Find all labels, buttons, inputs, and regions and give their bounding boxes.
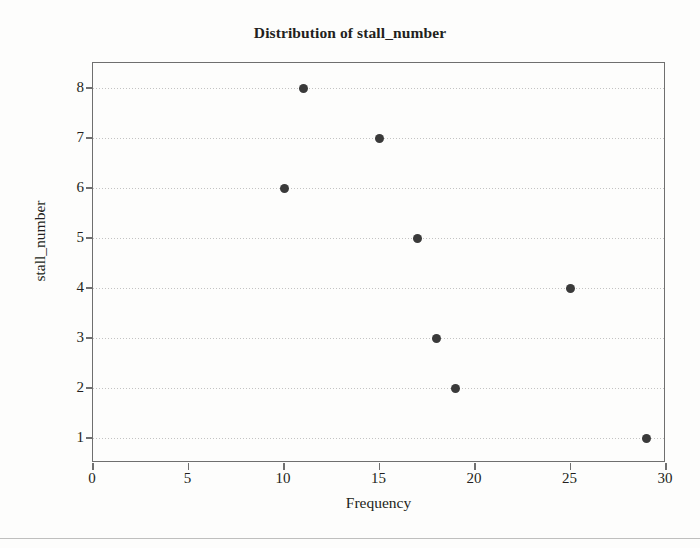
data-points-layer (93, 63, 664, 461)
y-tick-label: 8 (44, 79, 84, 96)
x-tick-mark (283, 463, 284, 470)
data-point (451, 384, 460, 393)
plot-area (92, 62, 665, 462)
chart-title: Distribution of stall_number (0, 24, 700, 42)
x-tick-mark (92, 463, 93, 470)
scan-artifact-line (0, 538, 700, 539)
x-tick-mark (570, 463, 571, 470)
x-tick-label: 15 (354, 470, 404, 487)
y-tick-label: 4 (44, 279, 84, 296)
y-tick-mark (86, 287, 93, 288)
data-point (375, 134, 384, 143)
y-tick-mark (86, 187, 93, 188)
y-tick-label: 3 (44, 329, 84, 346)
x-tick-mark (474, 463, 475, 470)
y-tick-mark (86, 237, 93, 238)
data-point (432, 334, 441, 343)
x-axis-label: Frequency (92, 494, 665, 512)
y-tick-mark (86, 337, 93, 338)
y-tick-label: 7 (44, 129, 84, 146)
data-point (566, 284, 575, 293)
y-tick-label: 5 (44, 229, 84, 246)
x-tick-mark (188, 463, 189, 470)
data-point (413, 234, 422, 243)
y-tick-mark (86, 437, 93, 438)
data-point (299, 84, 308, 93)
y-tick-label: 6 (44, 179, 84, 196)
y-tick-label: 1 (44, 429, 84, 446)
data-point (642, 434, 651, 443)
y-axis-label: stall_number (31, 161, 49, 321)
x-tick-label: 20 (449, 470, 499, 487)
x-tick-mark (665, 463, 666, 470)
x-tick-label: 25 (545, 470, 595, 487)
y-tick-label: 2 (44, 379, 84, 396)
x-axis-tick-labels: 051015202530 (92, 470, 665, 492)
x-tick-label: 30 (640, 470, 690, 487)
y-tick-mark (86, 387, 93, 388)
y-tick-mark (86, 87, 93, 88)
chart-figure: Distribution of stall_number 12345678 05… (0, 0, 700, 548)
x-tick-label: 10 (258, 470, 308, 487)
y-tick-mark (86, 137, 93, 138)
data-point (280, 184, 289, 193)
x-tick-label: 0 (67, 470, 117, 487)
x-tick-mark (379, 463, 380, 470)
x-tick-label: 5 (163, 470, 213, 487)
